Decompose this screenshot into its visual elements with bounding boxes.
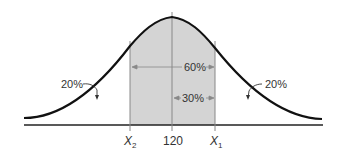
center-region-label: 60% [184,61,206,73]
right-tail-label: 20% [265,78,287,90]
right-tail-arrowhead [246,95,250,100]
normal-curve-diagram: 60% 30% 20% 20% X2 120 X1 [0,0,339,155]
x2-label: X2 [123,134,137,150]
left-tail-label: 20% [61,78,83,90]
left-tail-arrowhead [95,95,99,100]
half-region-label: 30% [182,92,204,104]
x1-label: X1 [209,134,223,150]
mean-label: 120 [163,134,183,148]
